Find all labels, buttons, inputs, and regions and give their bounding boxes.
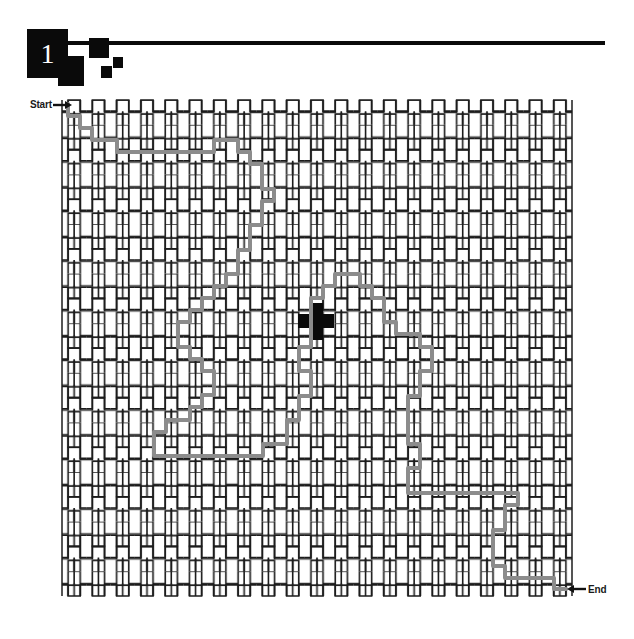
maze-figure: Start End [0,0,634,639]
start-label: Start [30,99,52,110]
maze-canvas [0,0,634,639]
maze-walls [62,100,572,596]
end-label: End [588,584,606,595]
maze-page: 1 [0,0,634,639]
